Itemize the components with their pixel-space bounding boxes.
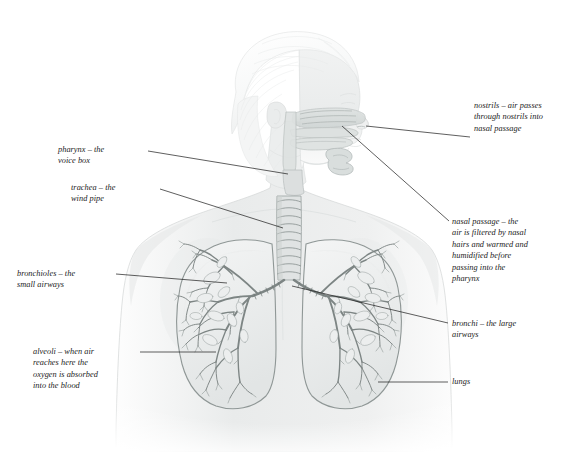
right-lung bbox=[177, 240, 276, 409]
label-nostrils: nostrils – air passes through nostrils i… bbox=[474, 100, 566, 134]
left-lung bbox=[302, 240, 401, 409]
label-nasal-passage: nasal passage – the air is filtered by n… bbox=[452, 216, 548, 284]
trachea bbox=[277, 196, 302, 280]
respiratory-system-figure: nostrils – air passes through nostrils i… bbox=[0, 0, 567, 452]
label-pharynx: pharynx – the voice box bbox=[58, 144, 144, 167]
label-lungs: lungs bbox=[452, 376, 512, 387]
label-bronchi: bronchi – the large airways bbox=[452, 318, 550, 341]
torso-body bbox=[110, 150, 458, 452]
label-bronchioles: bronchioles – the small airways bbox=[17, 268, 113, 291]
leader-nasal-passage bbox=[342, 126, 449, 221]
label-alveoli: alveoli – when air reaches here the oxyg… bbox=[33, 346, 137, 392]
leader-nostrils bbox=[366, 126, 470, 137]
label-trachea: trachea – the wind pipe bbox=[71, 182, 157, 205]
